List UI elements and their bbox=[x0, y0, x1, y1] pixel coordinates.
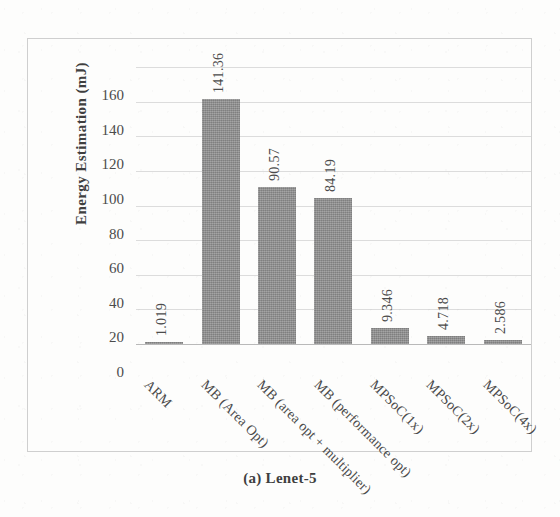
y-axis-tick-label: 120 bbox=[102, 156, 125, 173]
x-axis-category-label: MB (performance opt) bbox=[310, 377, 414, 481]
figure-caption: (a) Lenet-5 bbox=[0, 470, 560, 487]
y-axis-tick-label: 80 bbox=[109, 225, 124, 242]
bar-value-label: 84.19 bbox=[323, 159, 339, 192]
bar-slot: 90.57 bbox=[249, 67, 305, 344]
x-axis-category-label: MPSoC(4x) bbox=[479, 377, 539, 437]
y-axis-tick-label: 100 bbox=[102, 190, 125, 207]
x-axis-category-label: MPSoC(2x) bbox=[423, 377, 483, 437]
bar-value-label: 2.586 bbox=[493, 301, 509, 334]
bar-slot: 141.36 bbox=[192, 67, 248, 344]
bar[interactable] bbox=[258, 187, 296, 344]
bar-slot: 84.19 bbox=[305, 67, 361, 344]
y-axis-tick-label: 160 bbox=[102, 87, 125, 104]
bar-value-label: 1.019 bbox=[154, 303, 170, 336]
bar-value-label: 4.718 bbox=[436, 297, 452, 330]
bar-series: 1.019141.3690.5784.199.3464.7182.586 bbox=[136, 67, 531, 344]
bar[interactable] bbox=[371, 328, 409, 344]
bar-value-label: 9.346 bbox=[380, 289, 396, 322]
figure-page: Energy Estimation (mJ) 16014012010080604… bbox=[0, 0, 560, 517]
bar[interactable] bbox=[145, 342, 183, 344]
bar[interactable] bbox=[484, 340, 522, 344]
y-axis-tick-label: 140 bbox=[102, 121, 125, 138]
bar-value-label: 141.36 bbox=[211, 53, 227, 93]
bar-value-label: 90.57 bbox=[267, 148, 283, 181]
bar[interactable] bbox=[202, 99, 240, 344]
bar-slot: 9.346 bbox=[362, 67, 418, 344]
y-axis-tick-label: 40 bbox=[109, 294, 124, 311]
bar-slot: 2.586 bbox=[475, 67, 531, 344]
bar-slot: 4.718 bbox=[418, 67, 474, 344]
x-axis-category-label: MPSoC(1x) bbox=[367, 377, 427, 437]
plot-area: 1.019141.3690.5784.199.3464.7182.586 bbox=[136, 67, 531, 372]
axis-baseline bbox=[136, 344, 531, 345]
x-axis-category-label: ARM bbox=[141, 377, 175, 411]
y-axis-tick-label: 20 bbox=[109, 329, 124, 346]
bar[interactable] bbox=[314, 198, 352, 344]
y-axis-tick-labels: 160140120100806040200 bbox=[62, 67, 130, 372]
y-axis-tick-label: 60 bbox=[109, 260, 124, 277]
bar[interactable] bbox=[427, 336, 465, 344]
plot-frame: Energy Estimation (mJ) 16014012010080604… bbox=[27, 38, 532, 452]
bar-slot: 1.019 bbox=[136, 67, 192, 344]
y-axis-tick-label: 0 bbox=[117, 364, 125, 381]
